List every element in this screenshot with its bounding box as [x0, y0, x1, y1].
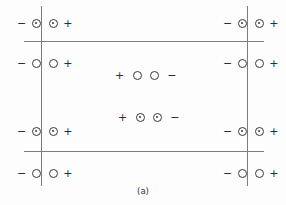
- plus-sign: +: [269, 126, 278, 137]
- charge-group-second-right: − +: [223, 56, 278, 70]
- open-circle-icon: [29, 166, 43, 180]
- charge-group-top-right: − +: [223, 16, 278, 30]
- open-circle-icon: [29, 56, 43, 70]
- plus-sign: +: [269, 168, 278, 179]
- minus-sign: −: [167, 70, 176, 81]
- minus-sign: −: [223, 126, 232, 137]
- open-circle-icon: [235, 166, 249, 180]
- dotted-circle-icon: [252, 124, 266, 138]
- dotted-circle-icon: [150, 110, 164, 124]
- minus-sign: −: [17, 18, 26, 29]
- minus-sign: −: [223, 168, 232, 179]
- plus-sign: +: [63, 18, 72, 29]
- plus-sign: +: [269, 58, 278, 69]
- minus-sign: −: [170, 112, 179, 123]
- dotted-circle-icon: [29, 16, 43, 30]
- plus-sign: +: [269, 18, 278, 29]
- minus-sign: −: [223, 18, 232, 29]
- charge-group-third-left: − +: [17, 124, 72, 138]
- open-circle-icon: [252, 166, 266, 180]
- plus-sign: +: [118, 112, 127, 123]
- dotted-circle-icon: [29, 124, 43, 138]
- dotted-circle-icon: [252, 16, 266, 30]
- lower-horizontal-line: [24, 151, 264, 152]
- charge-group-third-right: − +: [223, 124, 278, 138]
- center-charge-group-upper: + −: [115, 68, 176, 82]
- plus-sign: +: [63, 168, 72, 179]
- plus-sign: +: [63, 58, 72, 69]
- minus-sign: −: [17, 58, 26, 69]
- dotted-circle-icon: [235, 124, 249, 138]
- minus-sign: −: [223, 58, 232, 69]
- figure-panel-a: − + − + − +: [0, 0, 286, 205]
- open-circle-icon: [130, 68, 144, 82]
- plus-sign: +: [63, 126, 72, 137]
- charge-group-bottom-right: − +: [223, 166, 278, 180]
- plus-sign: +: [115, 70, 124, 81]
- charge-group-second-left: − +: [17, 56, 72, 70]
- open-circle-icon: [147, 68, 161, 82]
- dotted-circle-icon: [46, 16, 60, 30]
- open-circle-icon: [252, 56, 266, 70]
- dotted-circle-icon: [133, 110, 147, 124]
- figure-caption: (a): [0, 186, 286, 196]
- dotted-circle-icon: [46, 124, 60, 138]
- open-circle-icon: [46, 166, 60, 180]
- center-charge-group-lower: + −: [118, 110, 179, 124]
- left-vertical-line: [41, 6, 42, 186]
- upper-horizontal-line: [24, 41, 264, 42]
- minus-sign: −: [17, 126, 26, 137]
- dotted-circle-icon: [235, 16, 249, 30]
- right-vertical-line: [247, 6, 248, 186]
- open-circle-icon: [46, 56, 60, 70]
- charge-group-top-left: − +: [17, 16, 72, 30]
- charge-group-bottom-left: − +: [17, 166, 72, 180]
- minus-sign: −: [17, 168, 26, 179]
- open-circle-icon: [235, 56, 249, 70]
